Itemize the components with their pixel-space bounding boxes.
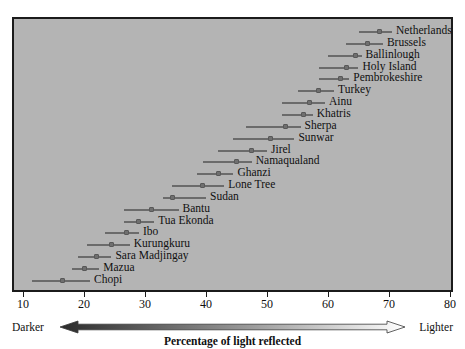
mean-marker [124, 230, 129, 235]
darker-lighter-gradient-strip: Darker Lighter [12, 320, 453, 336]
mean-marker [377, 29, 382, 34]
plot-frame: NetherlandsBrusselsBallinloughHoly Islan… [12, 17, 453, 292]
data-row: Sudan [14, 192, 451, 204]
range-line [172, 185, 224, 187]
axis-tick-label: 10 [17, 297, 29, 312]
mean-marker [136, 219, 141, 224]
double-arrow-gradient-icon [60, 320, 405, 334]
range-line [105, 232, 139, 234]
mean-marker [216, 171, 221, 176]
data-row: Khatris [14, 109, 451, 121]
data-row: Turkey [14, 85, 451, 97]
data-row: Netherlands [14, 26, 451, 38]
mean-marker [353, 53, 358, 58]
row-label: Sudan [210, 190, 239, 203]
mean-marker [109, 242, 114, 247]
range-line [282, 114, 313, 116]
mean-marker [268, 136, 273, 141]
mean-marker [338, 76, 343, 81]
lighter-label: Lighter [419, 321, 453, 333]
darker-label: Darker [12, 321, 44, 333]
axis-tick-label: 20 [78, 297, 90, 312]
data-row: Sara Madjingay [14, 251, 451, 263]
row-label: Sunwar [298, 131, 333, 144]
mean-marker [94, 254, 99, 259]
mean-marker [365, 41, 370, 46]
plot-area: NetherlandsBrusselsBallinloughHoly Islan… [14, 19, 451, 290]
range-line [203, 161, 252, 163]
data-row: Bantu [14, 204, 451, 216]
range-line [359, 31, 393, 33]
mean-marker [234, 159, 239, 164]
row-label: Tua Ekonda [158, 214, 213, 227]
mean-marker [82, 266, 87, 271]
mean-marker [200, 183, 205, 188]
mean-marker [307, 100, 312, 105]
data-row: Namaqualand [14, 156, 451, 168]
axis-tick-label: 80 [444, 297, 456, 312]
range-line [218, 150, 267, 152]
mean-marker [170, 195, 175, 200]
mean-marker [301, 112, 306, 117]
data-row: Ainu [14, 97, 451, 109]
data-row: Mazua [14, 263, 451, 275]
range-line [319, 67, 359, 69]
data-row: Jirel [14, 145, 451, 157]
data-row: Chopi [14, 275, 451, 287]
x-axis: 1020304050607080 [12, 292, 453, 312]
mean-marker [60, 278, 65, 283]
data-row: Sunwar [14, 133, 451, 145]
axis-tick-label: 60 [322, 297, 334, 312]
mean-marker [283, 124, 288, 129]
data-row: Ibo [14, 227, 451, 239]
mean-marker [344, 65, 349, 70]
row-label: Chopi [94, 273, 122, 286]
range-line [246, 126, 301, 128]
axis-caption: Percentage of light reflected [0, 335, 465, 347]
data-row: Tua Ekonda [14, 216, 451, 228]
axis-tick-label: 40 [200, 297, 212, 312]
mean-marker [316, 88, 321, 93]
skin-reflectance-figure: NetherlandsBrusselsBallinloughHoly Islan… [0, 0, 465, 349]
axis-tick-label: 70 [383, 297, 395, 312]
data-row: Kurungkuru [14, 239, 451, 251]
range-line [233, 138, 294, 140]
mean-marker [249, 148, 254, 153]
data-row: Sherpa [14, 121, 451, 133]
range-line [319, 78, 350, 80]
mean-marker [149, 207, 154, 212]
axis-tick-label: 30 [139, 297, 151, 312]
axis-tick-label: 50 [261, 297, 273, 312]
range-line [282, 102, 325, 104]
data-row: Pembrokeshire [14, 73, 451, 85]
